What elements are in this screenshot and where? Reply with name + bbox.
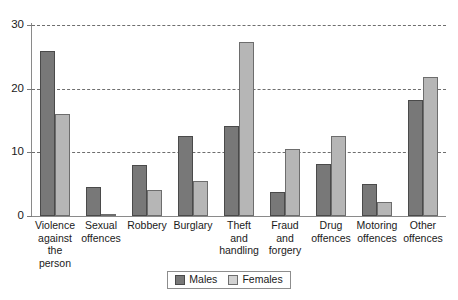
legend-item-females[interactable]: Females bbox=[228, 273, 282, 286]
plot-area: 0102030 bbox=[32, 25, 446, 216]
bar-group bbox=[400, 25, 446, 216]
x-axis-line bbox=[32, 216, 446, 217]
category-label: Otheroffences bbox=[400, 219, 446, 269]
bar-group bbox=[354, 25, 400, 216]
category-label: Robbery bbox=[124, 219, 170, 269]
x-axis-category-labels: Violenceagainst thepersonSexualoffencesR… bbox=[32, 219, 446, 269]
legend-label-males: Males bbox=[189, 273, 217, 286]
bar-females[interactable] bbox=[101, 214, 116, 216]
bar-males[interactable] bbox=[132, 165, 147, 216]
bar-group bbox=[32, 25, 78, 216]
bar-males[interactable] bbox=[40, 51, 55, 216]
bar-group bbox=[216, 25, 262, 216]
bar-males[interactable] bbox=[408, 100, 423, 217]
bar-group bbox=[308, 25, 354, 216]
bar-females[interactable] bbox=[331, 136, 346, 216]
legend-label-females: Females bbox=[242, 273, 282, 286]
bar-group bbox=[78, 25, 124, 216]
bars-layer bbox=[32, 25, 446, 216]
bar-group bbox=[262, 25, 308, 216]
bar-males[interactable] bbox=[362, 184, 377, 216]
y-tick-label-0: 0 bbox=[18, 210, 24, 222]
category-label: Burglary bbox=[170, 219, 216, 269]
legend-item-males[interactable]: Males bbox=[175, 273, 217, 286]
category-label: Sexualoffences bbox=[78, 219, 124, 269]
bar-females[interactable] bbox=[193, 181, 208, 216]
category-label: Drugoffences bbox=[308, 219, 354, 269]
bar-females[interactable] bbox=[55, 114, 70, 216]
legend-swatch-females-icon bbox=[228, 275, 238, 285]
category-label: Theft andhandling bbox=[216, 219, 262, 269]
bar-males[interactable] bbox=[86, 187, 101, 216]
y-tick-label-20: 20 bbox=[11, 83, 24, 95]
legend: Males Females bbox=[0, 271, 458, 289]
bar-group bbox=[170, 25, 216, 216]
bar-females[interactable] bbox=[239, 42, 254, 216]
y-tick-label-10: 10 bbox=[11, 147, 24, 159]
bar-females[interactable] bbox=[377, 202, 392, 216]
bar-females[interactable] bbox=[423, 77, 438, 216]
bar-females[interactable] bbox=[147, 190, 162, 216]
bar-males[interactable] bbox=[178, 136, 193, 216]
bar-females[interactable] bbox=[285, 149, 300, 216]
legend-swatch-males-icon bbox=[175, 275, 185, 285]
bar-males[interactable] bbox=[316, 164, 331, 216]
category-label: Motoringoffences bbox=[354, 219, 400, 269]
category-label: Violenceagainst theperson bbox=[32, 219, 78, 269]
bar-males[interactable] bbox=[270, 192, 285, 216]
bar-group bbox=[124, 25, 170, 216]
y-tick-label-30: 30 bbox=[11, 19, 24, 31]
bar-males[interactable] bbox=[224, 126, 239, 216]
category-label: Fraud andforgery bbox=[262, 219, 308, 269]
y-tick-mark-0 bbox=[27, 216, 32, 217]
bar-chart: 0102030 Violenceagainst thepersonSexualo… bbox=[0, 0, 458, 300]
legend-box: Males Females bbox=[167, 271, 290, 289]
